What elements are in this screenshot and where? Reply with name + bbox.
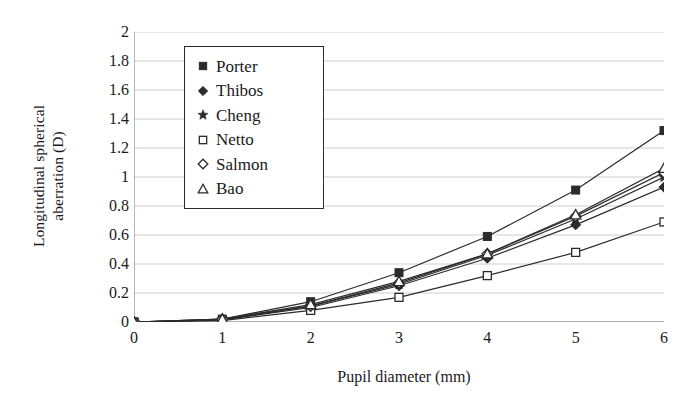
- y-axis-label-line1: Longitudinal spherical: [29, 105, 48, 247]
- legend-label: Bao: [213, 180, 243, 197]
- open-square-icon: [193, 130, 213, 150]
- legend-label: Salmon: [213, 156, 268, 173]
- y-tick-label: 1.4: [90, 111, 134, 127]
- chart-figure: Longitudinal spherical aberration (D) 00…: [0, 0, 689, 403]
- x-axis-tick-labels: 0123456: [0, 330, 689, 360]
- chart-legend: PorterThibosChengNettoSalmonBao: [184, 46, 324, 209]
- filled-diamond-icon: [193, 81, 213, 101]
- legend-label: Cheng: [213, 107, 260, 124]
- data-point-marker-filled-square: [660, 127, 664, 135]
- y-axis-label: Longitudinal spherical aberration (D): [0, 0, 96, 352]
- legend-label: Thibos: [213, 82, 263, 99]
- data-point-marker-open-triangle: [659, 163, 664, 172]
- legend-item-netto[interactable]: Netto: [193, 128, 317, 153]
- legend-label: Netto: [213, 131, 254, 148]
- y-tick-label: 0.6: [90, 227, 134, 243]
- legend-item-thibos[interactable]: Thibos: [193, 79, 317, 104]
- x-tick-label: 3: [379, 330, 419, 346]
- y-tick-label: 0.8: [90, 198, 134, 214]
- data-point-marker-open-triangle: [198, 184, 208, 193]
- data-point-marker-open-square: [199, 136, 206, 143]
- y-tick-label: 0.4: [90, 256, 134, 272]
- data-point-marker-open-square: [572, 248, 580, 256]
- y-axis-label-line2: aberration (D): [48, 105, 67, 247]
- y-tick-label: 0: [90, 314, 134, 330]
- legend-item-salmon[interactable]: Salmon: [193, 152, 317, 177]
- legend-item-bao[interactable]: Bao: [193, 177, 317, 202]
- x-tick-label: 1: [202, 330, 242, 346]
- data-point-marker-filled-diamond: [198, 86, 207, 95]
- data-point-marker-filled-square: [572, 186, 580, 194]
- open-diamond-icon: [193, 154, 213, 174]
- filled-star-icon: [193, 105, 213, 125]
- data-point-marker-open-diamond: [198, 159, 208, 169]
- y-tick-label: 1.8: [90, 53, 134, 69]
- open-triangle-icon: [193, 179, 213, 199]
- y-tick-label: 1.2: [90, 140, 134, 156]
- x-tick-label: 4: [467, 330, 507, 346]
- x-axis-label: Pupil diameter (mm): [134, 368, 674, 386]
- y-tick-label: 2: [90, 24, 134, 40]
- data-point-marker-open-square: [483, 272, 491, 280]
- x-tick-label: 0: [114, 330, 154, 346]
- data-point-marker-filled-square: [483, 232, 491, 240]
- data-point-marker-filled-star: [198, 110, 208, 120]
- y-tick-label: 1.6: [90, 82, 134, 98]
- legend-label: Porter: [213, 58, 258, 75]
- data-point-marker-open-square: [660, 218, 664, 226]
- x-tick-label: 2: [291, 330, 331, 346]
- y-tick-label: 0.2: [90, 285, 134, 301]
- legend-item-porter[interactable]: Porter: [193, 54, 317, 79]
- data-point-marker-filled-diamond: [659, 182, 664, 192]
- y-tick-label: 1: [90, 169, 134, 185]
- data-point-marker-filled-square: [199, 63, 206, 70]
- x-tick-label: 6: [644, 330, 684, 346]
- legend-item-cheng[interactable]: Cheng: [193, 103, 317, 128]
- filled-square-icon: [193, 56, 213, 76]
- x-tick-label: 5: [556, 330, 596, 346]
- data-point-marker-open-square: [395, 293, 403, 301]
